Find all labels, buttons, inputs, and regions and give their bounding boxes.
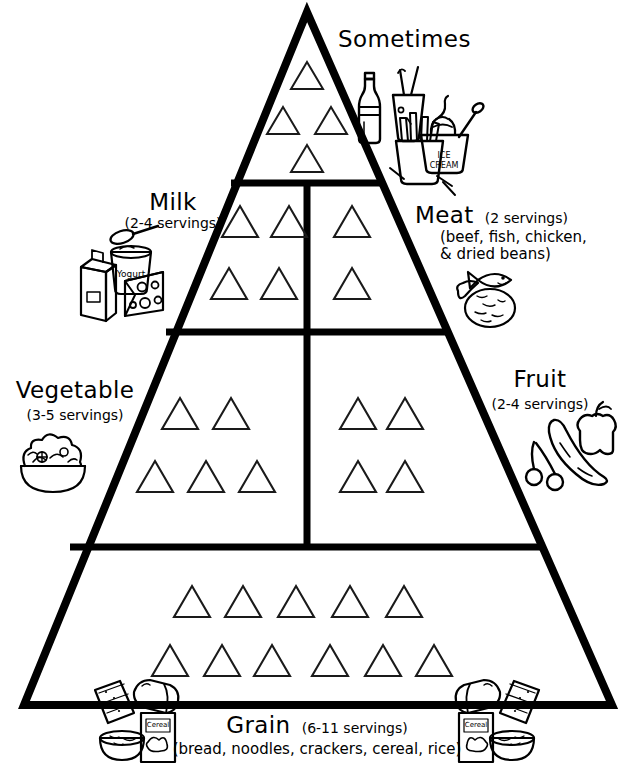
- beans-bowl-icon: [465, 289, 515, 327]
- ice-cream-caption-line2: CREAM: [430, 161, 459, 170]
- label-grain: Grain (6-11 servings) (bread, noodles, c…: [127, 713, 507, 758]
- salad-bowl-icon: [21, 434, 85, 492]
- label-milk: Milk (2-4 servings): [118, 190, 228, 231]
- vegetable-servings: (3-5 servings): [10, 408, 140, 424]
- ice-cream-caption-line1: ICE: [438, 151, 451, 160]
- milk-name: Milk: [118, 190, 228, 216]
- meat-subtitle-line2: & dried beans): [440, 246, 587, 263]
- grain-subtitle: (bread, noodles, crackers, cereal, rice): [127, 741, 507, 758]
- pyramid-outline: [24, 12, 612, 705]
- grain-name: Grain: [226, 712, 290, 738]
- vegetable-icons: [21, 434, 85, 492]
- cherries-icon: [526, 442, 563, 490]
- label-vegetable: Vegetable (3-5 servings): [10, 378, 140, 423]
- soda-cup-icon: [393, 67, 424, 141]
- meat-icons: [457, 272, 515, 327]
- fruit-servings: (2-4 servings): [480, 397, 600, 413]
- meat-servings: (2 servings): [485, 210, 568, 226]
- milk-servings: (2-4 servings): [118, 216, 228, 232]
- label-sometimes: Sometimes: [338, 27, 471, 53]
- vegetable-name: Vegetable: [10, 378, 140, 404]
- label-meat: Meat (2 servings) (beef, fish, chicken, …: [415, 203, 587, 262]
- yogurt-caption: Yogurt: [116, 269, 146, 279]
- fruit-icons: [526, 402, 616, 490]
- milk-carton-icon: [81, 250, 116, 321]
- meat-subtitle-line1: (beef, fish, chicken,: [440, 229, 587, 246]
- label-fruit: Fruit (2-4 servings): [480, 367, 600, 412]
- grain-servings: (6-11 servings): [302, 720, 408, 736]
- sometimes-name: Sometimes: [338, 26, 471, 52]
- food-pyramid-diagram: Yogurt ICE CREAM Cereal Cereal Sometimes…: [0, 0, 634, 775]
- fruit-name: Fruit: [480, 367, 600, 393]
- meat-name: Meat: [415, 202, 474, 228]
